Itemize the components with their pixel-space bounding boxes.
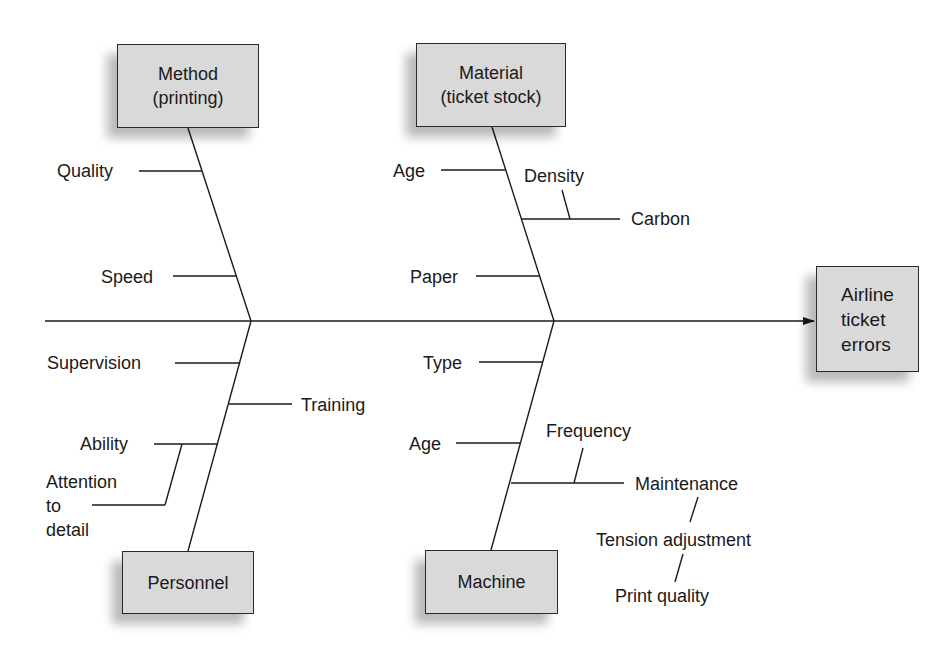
label-paper: Paper	[410, 267, 458, 287]
method-title: Method	[152, 62, 223, 86]
material-subtitle: (ticket stock)	[440, 85, 541, 109]
personnel-bone	[188, 321, 251, 551]
material-title: Material	[440, 61, 541, 85]
effect-line-2: ticket	[841, 307, 894, 332]
machine-bone	[491, 321, 554, 550]
material-bone	[492, 127, 554, 321]
label-speed: Speed	[101, 267, 153, 287]
label-ability: Ability	[80, 434, 128, 454]
attention-connector	[165, 444, 182, 505]
density-branch	[562, 190, 570, 219]
tension-connector	[690, 497, 698, 522]
label-density: Density	[524, 166, 584, 186]
label-maintenance: Maintenance	[635, 474, 738, 494]
personnel-title: Personnel	[147, 571, 228, 595]
label-frequency: Frequency	[546, 421, 631, 441]
attention-line-1: Attention	[46, 470, 136, 494]
material-box: Material (ticket stock)	[416, 43, 566, 127]
effect-line-1: Airline	[841, 282, 894, 307]
print-quality-connector	[675, 554, 683, 582]
machine-title: Machine	[457, 570, 525, 594]
label-training: Training	[301, 395, 365, 415]
label-print-quality: Print quality	[615, 586, 709, 606]
attention-line-3: detail	[46, 518, 136, 542]
machine-box: Machine	[425, 550, 558, 614]
effect-box: Airline ticket errors	[816, 266, 919, 372]
label-carbon: Carbon	[631, 209, 690, 229]
label-attention-to-detail: Attention to detail	[46, 470, 136, 542]
label-type: Type	[423, 353, 462, 373]
label-quality: Quality	[57, 161, 113, 181]
effect-line-3: errors	[841, 332, 894, 357]
personnel-box: Personnel	[122, 551, 254, 614]
frequency-branch	[574, 448, 583, 483]
attention-line-2: to	[46, 494, 136, 518]
label-material-age: Age	[393, 161, 425, 181]
method-subtitle: (printing)	[152, 86, 223, 110]
label-tension-adjustment: Tension adjustment	[596, 530, 751, 550]
label-supervision: Supervision	[47, 353, 141, 373]
method-box: Method (printing)	[117, 44, 259, 128]
method-bone	[188, 128, 251, 321]
label-machine-age: Age	[409, 434, 441, 454]
